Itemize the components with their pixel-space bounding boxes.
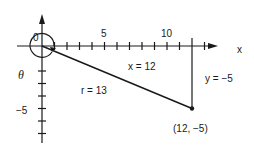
y-leg-label: y = −5 xyxy=(205,73,233,84)
y-tick-label-neg5: −5 xyxy=(16,105,28,116)
x-axis-label: x xyxy=(237,44,242,55)
x-tick-label-10: 10 xyxy=(161,28,173,39)
y-axis-arrow-icon xyxy=(39,14,45,24)
origin-label: 0 xyxy=(33,32,39,43)
x-axis-arrow-icon xyxy=(208,43,218,49)
x-leg-label: x = 12 xyxy=(128,61,156,72)
x-tick-label-5: 5 xyxy=(101,28,107,39)
coordinate-diagram: 0 5 10 x −5 θ x = 12 y = −5 r = 13 (12, … xyxy=(0,0,254,152)
radius-segment xyxy=(42,46,192,109)
point-marker xyxy=(190,106,194,110)
point-label: (12, −5) xyxy=(173,123,208,134)
radius-label: r = 13 xyxy=(81,85,107,96)
angle-label: θ xyxy=(18,68,24,82)
